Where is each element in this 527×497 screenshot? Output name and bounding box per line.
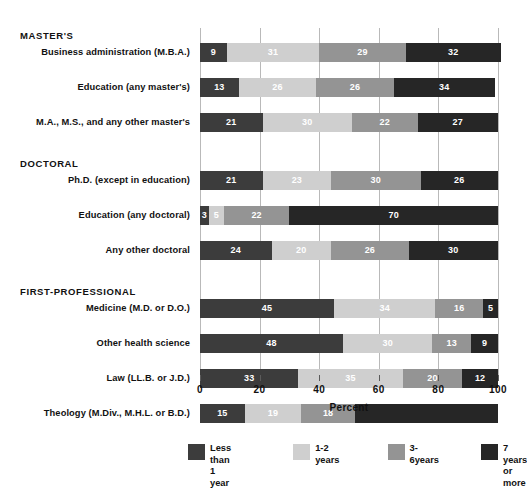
category-label: Law (LL.B. or J.D.) [0, 369, 190, 388]
x-axis-tick [438, 375, 439, 381]
bar-value-label: 13 [214, 83, 224, 92]
legend-label: 1-2 years [315, 443, 339, 466]
plot-area: 9312932132626342130222721233026352270242… [200, 28, 498, 375]
bar-value-label: 26 [272, 83, 282, 92]
bar-value-label: 30 [302, 118, 312, 127]
x-axis-tick [319, 375, 320, 381]
group-heading-master-s: MASTER'S [20, 30, 74, 42]
bar-row: 13262634 [200, 78, 495, 97]
bar-segment: 20 [272, 241, 332, 260]
x-axis-tick [498, 375, 499, 381]
bar-segment: 3 [200, 206, 209, 225]
bar-segment: 9 [200, 43, 227, 62]
bar-segment: 13 [432, 334, 471, 353]
bar-value-label: 5 [488, 304, 493, 313]
x-axis-title: Percent [200, 402, 498, 413]
bar-segment: 45 [200, 299, 334, 318]
legend-swatch [293, 444, 310, 460]
bar-segment: 31 [227, 43, 319, 62]
category-label: Theology (M.Div., M.H.L. or B.D.) [0, 404, 190, 423]
bar-row: 24202630 [200, 241, 498, 260]
gridline [498, 28, 499, 375]
bar-value-label: 70 [388, 211, 398, 220]
bar-value-label: 30 [371, 176, 381, 185]
legend-swatch [388, 444, 405, 460]
bar-segment: 9 [471, 334, 498, 353]
bar-value-label: 9 [482, 339, 487, 348]
category-label: Education (any master's) [0, 78, 190, 97]
bar-value-label: 26 [365, 246, 375, 255]
legend-label: 3-6years [410, 443, 439, 466]
bar-segment: 26 [316, 78, 393, 97]
bar-row: 21302227 [200, 113, 498, 132]
category-label: Any other doctoral [0, 241, 190, 260]
bar-value-label: 23 [292, 176, 302, 185]
x-axis-ticks [200, 375, 498, 383]
bar-segment: 48 [200, 334, 343, 353]
bar-value-label: 20 [296, 246, 306, 255]
legend-item: 7 years or more [481, 443, 527, 489]
legend-label: 7 years or more [503, 443, 527, 489]
bar-value-label: 21 [226, 176, 236, 185]
x-axis-tick [260, 375, 261, 381]
bar-value-label: 3 [202, 211, 207, 220]
x-axis-tick-labels: 020406080100 [200, 384, 498, 400]
bar-value-label: 29 [357, 48, 367, 57]
bar-segment: 34 [334, 299, 435, 318]
x-axis-tick [379, 375, 380, 381]
bar-value-label: 31 [268, 48, 278, 57]
category-label: M.A., M.S., and any other master's [0, 113, 190, 132]
bar-row: 352270 [200, 206, 498, 225]
bar-segment: 13 [200, 78, 239, 97]
legend-item: 3-6years [388, 443, 439, 466]
bar-value-label: 34 [380, 304, 390, 313]
category-label: Other health science [0, 334, 190, 353]
bar-segment: 34 [394, 78, 495, 97]
bar-row: 9312932 [200, 43, 501, 62]
x-axis-tick [200, 375, 201, 381]
category-label: Ph.D. (except in education) [0, 171, 190, 190]
bar-value-label: 26 [454, 176, 464, 185]
bar-value-label: 27 [453, 118, 463, 127]
bar-value-label: 22 [251, 211, 261, 220]
bar-segment: 26 [421, 171, 498, 190]
category-label: Education (any doctoral) [0, 206, 190, 225]
bar-segment: 16 [435, 299, 483, 318]
bar-segment: 21 [200, 171, 263, 190]
legend-label: Less than 1 year [210, 443, 231, 489]
bar-row: 4534165 [200, 299, 498, 318]
bar-segment: 5 [209, 206, 224, 225]
category-label: Medicine (M.D. or D.O.) [0, 299, 190, 318]
x-axis-tick-label: 100 [489, 384, 507, 395]
bar-value-label: 30 [383, 339, 393, 348]
bar-segment: 22 [352, 113, 418, 132]
x-axis-tick-label: 40 [313, 384, 325, 395]
bar-row: 4830139 [200, 334, 498, 353]
bar-value-label: 45 [262, 304, 272, 313]
bar-value-label: 21 [226, 118, 236, 127]
bar-value-label: 34 [439, 83, 449, 92]
group-heading-first-professional: FIRST-PROFESSIONAL [20, 286, 136, 298]
bar-segment: 30 [409, 241, 498, 260]
bar-value-label: 48 [266, 339, 276, 348]
x-axis-tick-label: 20 [254, 384, 266, 395]
bar-segment: 26 [239, 78, 316, 97]
bar-segment: 27 [418, 113, 498, 132]
bar-value-label: 13 [447, 339, 457, 348]
bar-segment: 5 [483, 299, 498, 318]
bar-value-label: 30 [448, 246, 458, 255]
bar-segment: 21 [200, 113, 263, 132]
bar-value-label: 9 [211, 48, 216, 57]
bar-segment: 26 [331, 241, 408, 260]
legend-item: 1-2 years [293, 443, 339, 466]
x-axis-tick-label: 0 [197, 384, 203, 395]
bar-value-label: 24 [231, 246, 241, 255]
bar-segment: 22 [224, 206, 290, 225]
bar-row: 21233026 [200, 171, 498, 190]
bar-segment: 24 [200, 241, 272, 260]
legend-item: Less than 1 year [188, 443, 231, 489]
bar-value-label: 5 [214, 211, 219, 220]
bar-segment: 30 [263, 113, 352, 132]
bar-segment: 32 [406, 43, 501, 62]
